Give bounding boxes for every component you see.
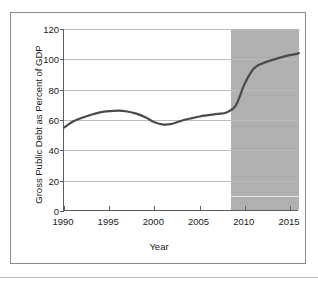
y-tick-label-0: 0 [25, 206, 59, 217]
x-tick-label-1990: 1990 [41, 216, 85, 227]
debt-line-series [64, 29, 298, 210]
y-tick-label-80: 80 [25, 84, 59, 95]
x-tick-label-2015: 2015 [267, 216, 311, 227]
page-divider-rule [0, 277, 318, 278]
y-tick-label-60: 60 [25, 115, 59, 126]
y-axis-tick-labels: 020406080100120 [11, 29, 59, 211]
plot-area [63, 29, 298, 211]
x-tick-label-2000: 2000 [131, 216, 175, 227]
y-tick-label-20: 20 [25, 175, 59, 186]
x-axis-title: Year [11, 241, 307, 252]
y-tick-label-120: 120 [25, 24, 59, 35]
x-axis-tick-labels: 199019952000200520102015 [63, 211, 298, 231]
x-tick-label-2005: 2005 [177, 216, 221, 227]
y-tick-label-40: 40 [25, 145, 59, 156]
x-tick-label-2010: 2010 [222, 216, 266, 227]
chart-figure-frame: Gross Public Debt as Percent of GDP Year… [10, 12, 306, 264]
y-tick-label-100: 100 [25, 54, 59, 65]
x-tick-label-1995: 1995 [86, 216, 130, 227]
